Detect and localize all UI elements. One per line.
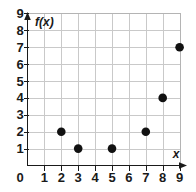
x-tick-label: 2	[58, 170, 65, 185]
data-point: (3, 1)	[74, 144, 83, 153]
x-tick-label: 4	[91, 170, 99, 185]
data-point: (9, 7)	[175, 43, 184, 52]
data-point: (7, 2)	[142, 127, 151, 136]
data-point: (8, 4)	[158, 94, 167, 103]
plot-frame	[28, 14, 181, 166]
x-tick-label: 1	[41, 170, 48, 185]
y-tick-label: 6	[16, 57, 23, 72]
x-axis-title: x	[172, 147, 181, 161]
axes-layer	[24, 12, 187, 169]
x-tick-label: 5	[108, 170, 115, 185]
tick-marks-layer	[24, 14, 181, 171]
origin-label: 0	[16, 170, 23, 185]
x-tick-label: 7	[142, 170, 149, 185]
y-tick-label: 4	[16, 90, 24, 105]
data-point: (2, 2)	[57, 127, 66, 136]
y-tick-label: 5	[16, 74, 23, 89]
scatter-plot-figure: 123456789 123456789 0 f(x) x (2, 2)(3, 1…	[0, 0, 196, 192]
y-axis-title: f(x)	[35, 15, 54, 29]
y-tick-label: 3	[16, 107, 23, 122]
data-points-layer: (2, 2)(3, 1)(5, 1)(7, 2)(8, 4)(9, 7)	[57, 43, 184, 153]
y-tick-label: 1	[16, 141, 23, 156]
y-tick-label: 9	[16, 6, 23, 21]
x-tick-label: 6	[125, 170, 132, 185]
x-tick-labels: 123456789	[41, 170, 183, 185]
x-tick-label: 8	[159, 170, 166, 185]
x-tick-label: 3	[75, 170, 82, 185]
y-tick-labels: 123456789	[16, 6, 24, 156]
x-tick-label: 9	[176, 170, 183, 185]
data-point: (5, 1)	[108, 144, 117, 153]
y-tick-label: 8	[16, 23, 23, 38]
y-tick-label: 2	[16, 124, 23, 139]
chart-canvas: 123456789 123456789 0 f(x) x (2, 2)(3, 1…	[0, 0, 196, 192]
grid-layer	[28, 14, 181, 166]
y-tick-label: 7	[16, 40, 23, 55]
